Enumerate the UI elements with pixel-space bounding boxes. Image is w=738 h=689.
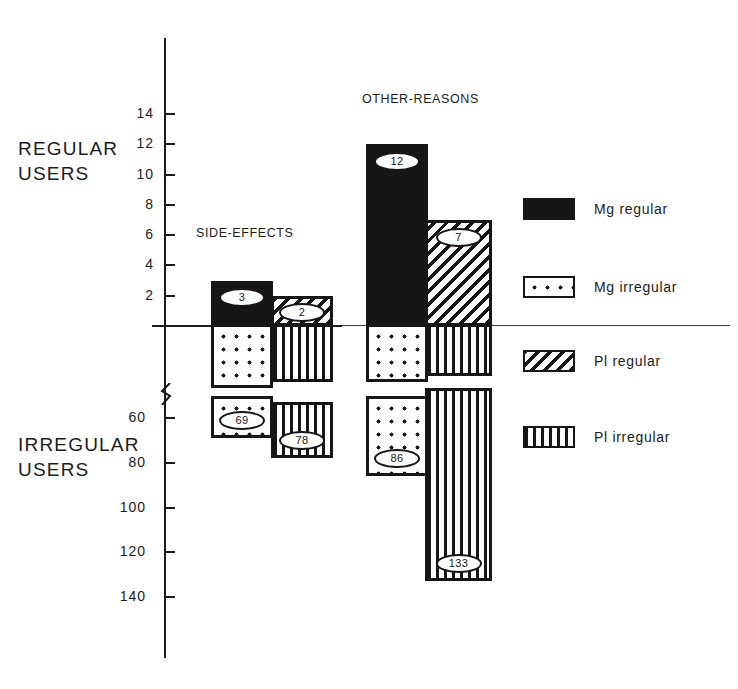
- y-tick-label-upper-2: 2: [108, 287, 154, 303]
- legend-item-mg-irregular: Mg irregular: [523, 274, 677, 300]
- legend-swatch-vertical-lines: [523, 426, 575, 448]
- y-tick-label-lower-80: 80: [100, 454, 146, 470]
- cluster-title-other-reasons: OTHER-REASONS: [362, 92, 479, 106]
- y-tick-label-upper-6: 6: [108, 226, 154, 242]
- y-tick-upper-6: [164, 234, 175, 236]
- legend-label: Pl regular: [594, 353, 661, 369]
- y-tick-label-lower-60: 60: [100, 409, 146, 425]
- bar-mg-regular-other-reasons: [366, 144, 428, 326]
- legend-label: Pl irregular: [594, 429, 670, 445]
- legend-item-pl-irregular: Pl irregular: [523, 424, 670, 450]
- y-axis-line: [164, 38, 166, 658]
- group-label-regular-users: REGULAR USERS: [18, 136, 118, 186]
- y-tick-lower-100: [164, 507, 175, 509]
- bar-mg-irregular-side-effects-upper: [211, 324, 273, 388]
- bar-mg-irregular-other-reasons-value-label: 86: [374, 449, 420, 468]
- y-tick-lower-60: [164, 417, 175, 419]
- y-tick-upper-8: [164, 204, 175, 206]
- bar-mg-irregular-side-effects-value-label: 69: [219, 411, 265, 430]
- y-tick-label-upper-8: 8: [108, 196, 154, 212]
- cluster-title-side-effects: SIDE-EFFECTS: [196, 226, 293, 240]
- y-tick-upper-12: [164, 143, 175, 145]
- chart-figure: REGULAR USERS IRREGULAR USERS SIDE-EFFEC…: [0, 0, 738, 689]
- bar-pl-irregular-other-reasons-upper: [425, 324, 492, 376]
- y-tick-upper-2: [164, 295, 175, 297]
- bar-mg-regular-other-reasons-value-label: 12: [374, 152, 420, 171]
- legend-swatch-solid: [523, 198, 575, 220]
- y-tick-label-upper-14: 14: [108, 105, 154, 121]
- legend-swatch-diagonal-hatch: [523, 350, 575, 372]
- y-tick-label-lower-120: 120: [100, 543, 146, 559]
- y-tick-lower-140: [164, 596, 175, 598]
- legend-item-pl-regular: Pl regular: [523, 348, 661, 374]
- bar-mg-regular-side-effects-value-label: 3: [219, 288, 265, 307]
- bar-pl-regular-other-reasons-value-label: 7: [436, 228, 482, 247]
- bar-pl-irregular-other-reasons: [425, 388, 492, 581]
- bar-pl-irregular-other-reasons-value-label: 133: [436, 554, 482, 573]
- bar-pl-irregular-side-effects-upper: [271, 324, 333, 382]
- y-tick-label-lower-140: 140: [100, 588, 146, 604]
- y-tick-upper-10: [164, 174, 175, 176]
- axis-break-icon: [158, 383, 174, 405]
- y-tick-lower-120: [164, 551, 175, 553]
- y-tick-label-lower-100: 100: [100, 499, 146, 515]
- y-tick-label-upper-12: 12: [108, 135, 154, 151]
- legend-item-mg-regular: Mg regular: [523, 196, 668, 222]
- y-tick-upper-14: [164, 113, 175, 115]
- y-tick-upper-4: [164, 264, 175, 266]
- y-tick-lower-80: [164, 462, 175, 464]
- legend-label: Mg regular: [594, 201, 668, 217]
- y-tick-label-upper-4: 4: [108, 256, 154, 272]
- bar-mg-irregular-other-reasons-upper: [366, 324, 428, 382]
- legend-label: Mg irregular: [594, 279, 677, 295]
- y-tick-label-upper-10: 10: [108, 166, 154, 182]
- legend-swatch-dots: [523, 276, 575, 298]
- bar-pl-irregular-side-effects-value-label: 78: [279, 431, 325, 450]
